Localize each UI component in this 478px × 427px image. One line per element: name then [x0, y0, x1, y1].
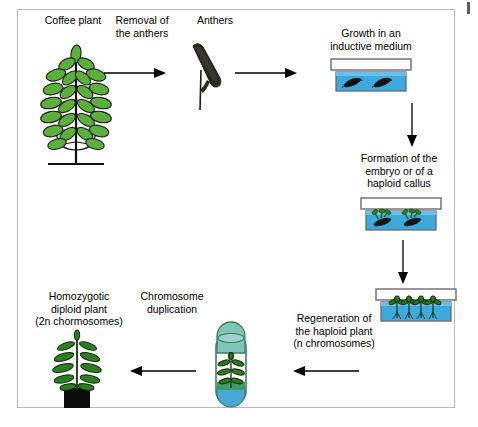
anthers-illustration	[186, 40, 230, 114]
petri-dish-inductive-medium	[330, 58, 412, 94]
coffee-plant-illustration	[26, 42, 126, 172]
petri-dish-regeneration	[375, 288, 457, 324]
label-removal-of-anthers: Removal of the anthers	[102, 14, 182, 39]
arrow-regeneration-to-tube	[293, 364, 359, 378]
registration-mark	[467, 2, 470, 14]
label-chromosome-duplication: Chromosome duplication	[125, 290, 219, 315]
arrow-tube-to-diploid-plant	[130, 364, 196, 378]
label-growth-inductive-medium: Growth in an inductive medium	[316, 27, 426, 52]
label-regeneration-haploid: Regeneration of the haploid plant (n chr…	[280, 312, 388, 350]
culture-tube-illustration	[211, 330, 251, 408]
arrow-anthers-to-dish	[235, 66, 297, 80]
diploid-plant-illustration	[42, 328, 112, 410]
arrow-dish-to-embryo	[405, 103, 419, 147]
label-anthers: Anthers	[180, 14, 250, 27]
arrow-plant-to-anthers	[104, 66, 166, 80]
label-formation-embryo: Formation of the embryo or of a haploid …	[344, 152, 454, 190]
diagram-root: Coffee plant Removal of the anthers Anth…	[0, 0, 478, 427]
arrow-embryo-to-regeneration	[396, 240, 410, 284]
label-homozygotic-diploid: Homozygotic diploid plant (2n chormosome…	[24, 290, 134, 328]
petri-dish-embryo-callus	[360, 197, 442, 233]
